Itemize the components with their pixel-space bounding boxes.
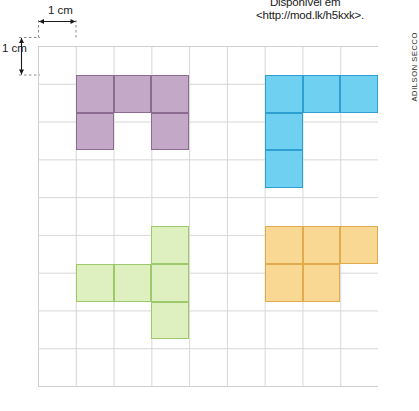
- source-credit: Disponível em <http://mod.lk/h5kxk>.: [256, 0, 416, 22]
- shape-cell: [303, 75, 341, 113]
- shape-cell: [265, 113, 303, 151]
- shape-cell: [265, 150, 303, 188]
- source-credit-line1: Disponível em: [256, 0, 416, 9]
- shape-cell: [265, 75, 303, 113]
- shape-cell: [151, 75, 189, 113]
- shape-cell: [265, 226, 303, 264]
- shape-cell: [151, 113, 189, 151]
- shape-cell: [114, 264, 152, 302]
- source-credit-line2: <http://mod.lk/h5kxk>.: [256, 9, 416, 22]
- illustrator-credit: ADILSON SECCO: [410, 32, 419, 101]
- shape-cell: [151, 302, 189, 340]
- figure-canvas: Disponível em <http://mod.lk/h5kxk>. ADI…: [0, 0, 419, 411]
- shape-cell: [265, 264, 303, 302]
- shape-cell: [76, 264, 114, 302]
- shape-cell: [76, 113, 114, 151]
- vertical-measure-label: 1 cm: [2, 42, 27, 54]
- horizontal-measure-label: 1 cm: [48, 4, 73, 16]
- shape-cell: [114, 75, 152, 113]
- shape-cell: [76, 75, 114, 113]
- shape-cell: [340, 226, 378, 264]
- shape-cell: [340, 75, 378, 113]
- shape-cell: [303, 264, 341, 302]
- shape-cell: [151, 226, 189, 264]
- centimeter-grid: [38, 37, 378, 395]
- shape-cell: [303, 226, 341, 264]
- shape-cell: [151, 264, 189, 302]
